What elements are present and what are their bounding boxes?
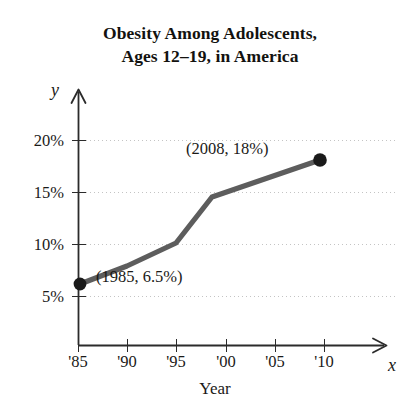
x-axis [78,339,387,353]
y-axis [72,90,86,346]
x-axis-variable-label: x [388,355,396,376]
x-tick-label-10: '10 [301,352,347,372]
y-tick-label-5: 5% [6,287,64,307]
y-tick-label-10: 10% [6,235,64,255]
x-tick-label-85: '85 [55,352,101,372]
annotation-right-point: (2008, 18%) [186,139,268,159]
x-tick-label-00: '00 [203,352,249,372]
x-axis-title: Year [165,379,265,399]
y-tick-label-20: 20% [6,131,64,151]
data-point-marker-2008 [313,153,327,167]
x-tick-label-95: '95 [153,352,199,372]
y-axis-variable-label: y [51,80,59,101]
y-tick-label-15: 15% [6,183,64,203]
data-line-obesity-rate [80,160,320,284]
annotation-left-point: (1985, 6.5%) [96,267,183,287]
x-tick-label-90: '90 [104,352,150,372]
obesity-line-chart: Obesity Among Adolescents, Ages 12–19, i… [0,0,414,418]
data-point-marker-1985 [74,278,87,291]
x-tick-label-05: '05 [252,352,298,372]
